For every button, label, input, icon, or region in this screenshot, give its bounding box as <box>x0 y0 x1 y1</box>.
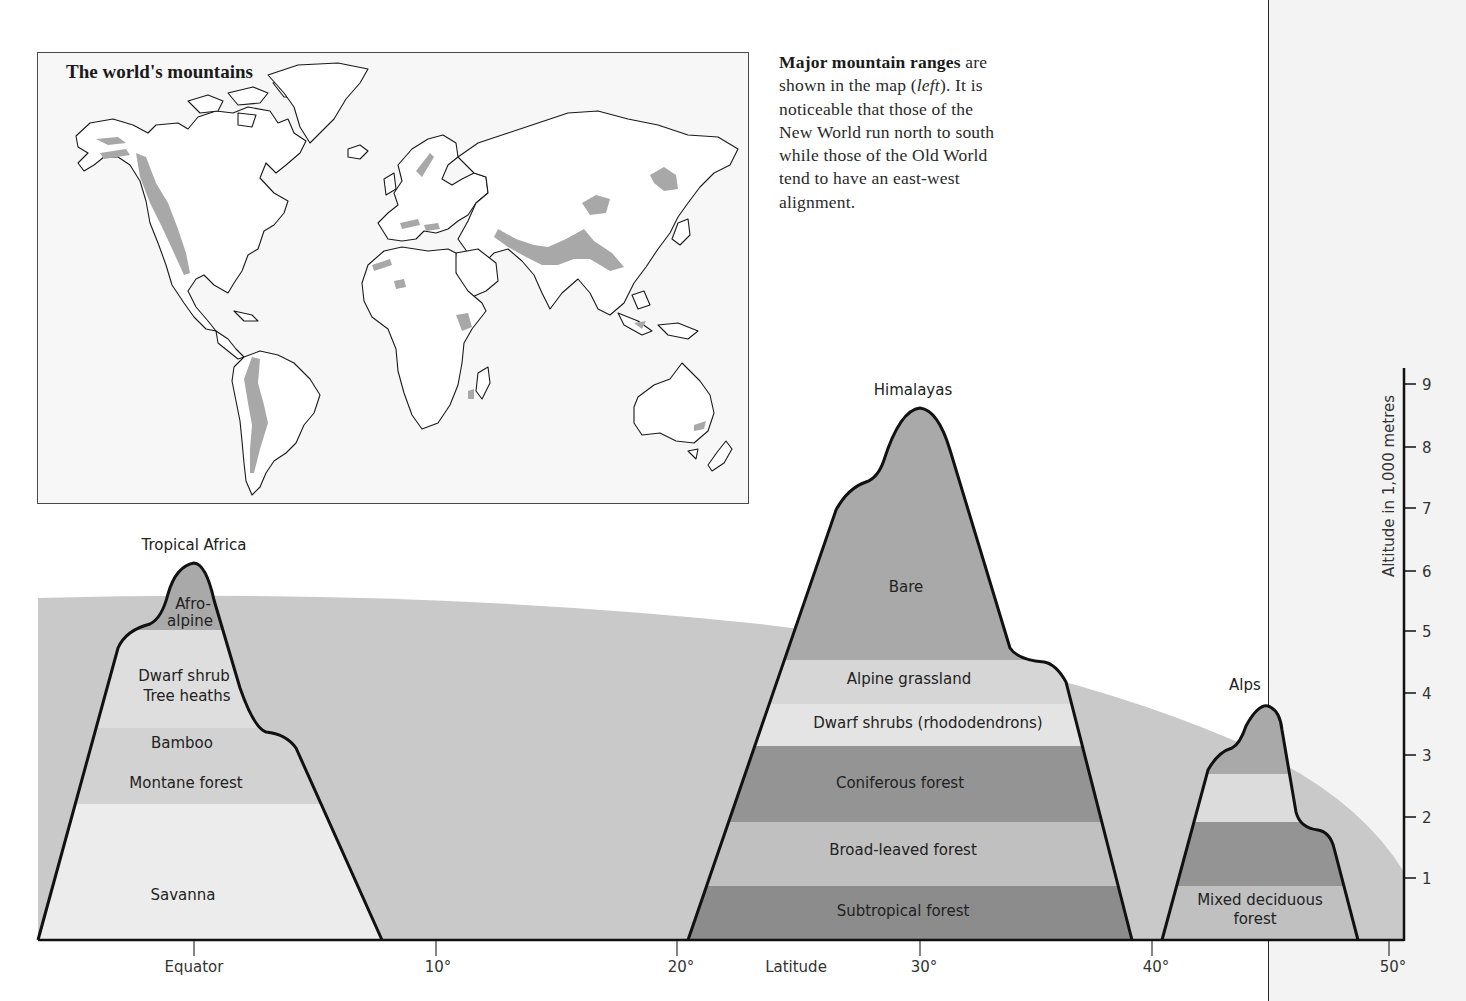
label-himalayas: Himalayas <box>874 381 953 399</box>
y-tick-5: 5 <box>1422 623 1432 641</box>
zone-savanna: Savanna <box>151 886 216 904</box>
y-tick-2: 2 <box>1422 809 1432 827</box>
zone-coniferous-forest: Coniferous forest <box>836 774 964 792</box>
y-axis-title: Altitude in 1,000 metres <box>1380 395 1398 577</box>
x-axis-ticks <box>194 941 1389 956</box>
zone-montane-forest: Montane forest <box>129 774 243 792</box>
y-tick-3: 3 <box>1422 747 1432 765</box>
zone-afro-alpine-line2: alpine <box>167 612 213 630</box>
y-axis-ticks <box>1404 384 1416 878</box>
zone-broad-leaved-forest: Broad-leaved forest <box>829 841 977 859</box>
zone-subtropical-forest: Subtropical forest <box>837 902 970 920</box>
zone-dwarf-shrubs-rhododendrons: Dwarf shrubs (rhododendrons) <box>813 714 1042 732</box>
y-tick-6: 6 <box>1422 563 1432 581</box>
zone-alpine-grassland: Alpine grassland <box>847 670 972 688</box>
zone-dwarf-shrub-line1: Dwarf shrub <box>138 667 230 685</box>
label-alps: Alps <box>1229 676 1261 694</box>
x-tick-equator: Equator <box>165 958 225 976</box>
x-axis-title: Latitude <box>765 958 827 976</box>
zone-mixed-deciduous-line2: forest <box>1233 910 1276 928</box>
label-tropical-africa: Tropical Africa <box>141 536 247 554</box>
zone-tree-heaths-line2: Tree heaths <box>142 687 230 705</box>
zone-bare: Bare <box>889 578 924 596</box>
zone-afro-alpine-line1: Afro- <box>175 595 211 613</box>
zone-bamboo: Bamboo <box>151 734 213 752</box>
x-tick-30: 30° <box>911 958 938 976</box>
x-tick-40: 40° <box>1143 958 1170 976</box>
x-tick-10: 10° <box>425 958 452 976</box>
y-tick-8: 8 <box>1422 439 1432 457</box>
x-tick-50: 50° <box>1380 958 1407 976</box>
y-tick-1: 1 <box>1422 870 1432 888</box>
y-tick-9: 9 <box>1422 376 1432 394</box>
y-tick-4: 4 <box>1422 685 1432 703</box>
x-tick-20: 20° <box>668 958 695 976</box>
zone-mixed-deciduous-line1: Mixed deciduous <box>1197 891 1323 909</box>
y-tick-7: 7 <box>1422 500 1432 518</box>
